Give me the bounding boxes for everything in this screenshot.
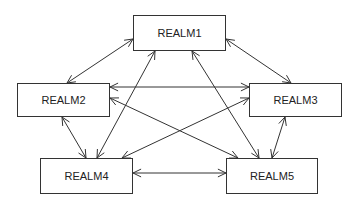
edge-realm1-realm3 — [226, 39, 291, 83]
node-label: REALM2 — [41, 94, 85, 106]
node-realm2: REALM2 — [17, 83, 110, 117]
node-realm3: REALM3 — [249, 83, 342, 117]
edge-realm2-realm5 — [110, 98, 238, 158]
arrowhead-icon — [79, 149, 86, 158]
node-label: REALM3 — [273, 94, 317, 106]
node-realm1: REALM1 — [133, 15, 226, 51]
node-realm5: REALM5 — [226, 158, 318, 194]
edge-realm1-realm2 — [67, 39, 133, 83]
edge-realm3-realm4 — [122, 98, 249, 158]
realm-network-diagram: REALM1 REALM2 REALM3 REALM4 REALM5 — [0, 0, 355, 206]
edge-realm3-realm5 — [272, 117, 285, 158]
edge-realm2-realm4 — [62, 117, 86, 158]
arrowhead-icon — [62, 117, 69, 126]
node-label: REALM4 — [64, 170, 108, 182]
node-realm4: REALM4 — [40, 158, 133, 194]
node-label: REALM1 — [157, 27, 201, 39]
node-label: REALM5 — [250, 170, 294, 182]
